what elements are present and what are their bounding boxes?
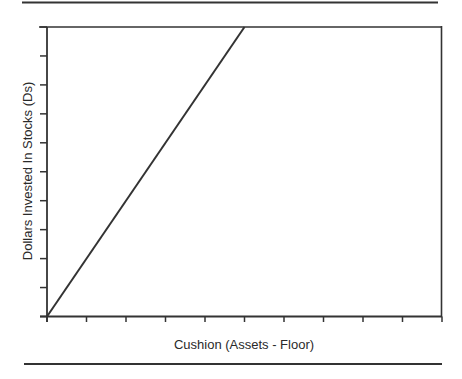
y-axis-ticks — [40, 27, 47, 317]
y-axis-label: Dollars Invested In Stocks (Ds) — [20, 82, 35, 260]
series-line — [47, 27, 245, 317]
x-axis-label: Cushion (Assets - Floor) — [174, 337, 314, 352]
plot-frame — [39, 26, 442, 322]
chart-figure: Dollars Invested In Stocks (Ds) Cushion … — [0, 0, 462, 379]
series-layer — [47, 27, 245, 317]
